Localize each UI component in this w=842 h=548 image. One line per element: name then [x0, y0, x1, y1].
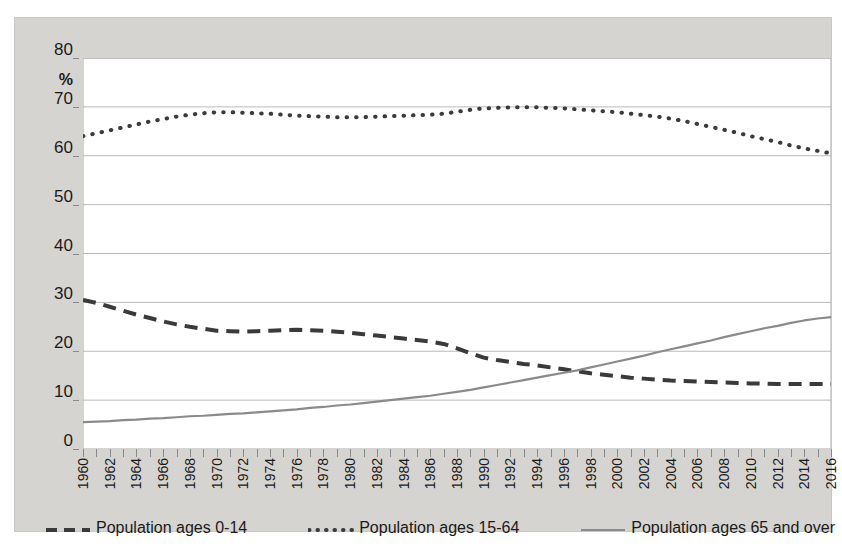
y-axis-unit-label: %	[59, 72, 73, 88]
x-tick-mark	[123, 449, 124, 457]
y-tick-mark	[73, 351, 79, 352]
x-tick-label: 1990	[477, 458, 491, 489]
x-tick-mark	[83, 449, 84, 457]
x-tick-label: 1970	[210, 458, 224, 489]
x-tick-label: 1992	[503, 458, 517, 489]
y-tick-label: 60	[54, 139, 73, 156]
x-tick-label: 1986	[423, 458, 437, 489]
x-tick-mark	[110, 449, 111, 457]
legend-label: Population ages 65 and over	[631, 520, 835, 536]
y-tick-mark	[73, 58, 79, 59]
x-tick-mark	[497, 449, 498, 457]
x-tick-mark	[510, 449, 511, 457]
x-tick-mark	[577, 449, 578, 457]
x-tick-label: 1988	[450, 458, 464, 489]
x-tick-mark	[697, 449, 698, 457]
legend-item[interactable]: Population ages 0-14	[45, 520, 247, 536]
y-tick-mark	[73, 107, 79, 108]
y-tick-label: 40	[54, 237, 73, 254]
y-axis: 80706050403020100%	[15, 18, 73, 548]
x-tick-mark	[217, 449, 218, 457]
x-tick-label: 2000	[610, 458, 624, 489]
plot-area	[83, 58, 831, 449]
plot-svg	[83, 58, 831, 449]
x-tick-mark	[96, 449, 97, 457]
x-tick-mark	[724, 449, 725, 457]
x-tick-mark	[791, 449, 792, 457]
x-tick-label: 2010	[744, 458, 758, 489]
x-tick-label: 1962	[103, 458, 117, 489]
x-tick-mark	[818, 449, 819, 457]
x-tick-label: 2012	[771, 458, 785, 489]
x-tick-label: 1978	[316, 458, 330, 489]
x-tick-mark	[377, 449, 378, 457]
chart-legend: Population ages 0-14Population ages 15-6…	[45, 514, 835, 542]
x-tick-label: 1980	[343, 458, 357, 489]
x-tick-mark	[364, 449, 365, 457]
legend-swatch-icon	[308, 522, 354, 534]
x-tick-mark	[257, 449, 258, 457]
legend-swatch-icon	[45, 522, 91, 534]
x-tick-mark	[337, 449, 338, 457]
series-line	[83, 317, 831, 422]
x-tick-label: 1974	[263, 458, 277, 489]
x-tick-mark	[163, 449, 164, 457]
legend-item[interactable]: Population ages 65 and over	[580, 520, 835, 536]
x-tick-mark	[310, 449, 311, 457]
x-tick-mark	[657, 449, 658, 457]
x-tick-mark	[283, 449, 284, 457]
legend-label: Population ages 15-64	[359, 520, 519, 536]
x-tick-mark	[404, 449, 405, 457]
x-axis: 1960196219641966196819701972197419761978…	[83, 458, 831, 518]
chart-frame: 80706050403020100% 196019621964196619681…	[14, 17, 832, 532]
x-tick-mark	[804, 449, 805, 457]
x-tick-label: 1994	[530, 458, 544, 489]
y-tick-mark	[73, 254, 79, 255]
x-tick-label: 1972	[236, 458, 250, 489]
x-tick-mark	[136, 449, 137, 457]
x-tick-label: 2014	[797, 458, 811, 489]
x-tick-mark	[323, 449, 324, 457]
x-tick-mark	[564, 449, 565, 457]
y-tick-label: 80	[54, 41, 73, 58]
x-tick-mark	[390, 449, 391, 457]
gridlines	[83, 58, 831, 449]
x-tick-mark	[430, 449, 431, 457]
y-tick-label: 50	[54, 188, 73, 205]
y-tick-mark	[73, 205, 79, 206]
x-tick-mark	[644, 449, 645, 457]
legend-label: Population ages 0-14	[96, 520, 247, 536]
y-tick-mark	[73, 449, 79, 450]
x-tick-mark	[457, 449, 458, 457]
x-tick-mark	[417, 449, 418, 457]
x-tick-label: 1976	[290, 458, 304, 489]
y-tick-mark	[73, 156, 79, 157]
legend-swatch-icon	[580, 522, 626, 534]
x-tick-mark	[537, 449, 538, 457]
x-tick-label: 1966	[156, 458, 170, 489]
x-tick-mark	[230, 449, 231, 457]
x-tick-label: 1996	[557, 458, 571, 489]
x-tick-mark	[297, 449, 298, 457]
x-tick-mark	[711, 449, 712, 457]
x-tick-label: 1964	[129, 458, 143, 489]
x-tick-mark	[203, 449, 204, 457]
series-lines	[83, 107, 831, 422]
x-tick-mark	[444, 449, 445, 457]
y-tick-label: 30	[54, 285, 73, 302]
x-tick-mark	[270, 449, 271, 457]
x-tick-mark	[778, 449, 779, 457]
x-tick-mark	[551, 449, 552, 457]
x-tick-mark	[604, 449, 605, 457]
legend-item[interactable]: Population ages 15-64	[308, 520, 519, 536]
population-age-structure-chart: 80706050403020100% 196019621964196619681…	[0, 0, 842, 548]
x-tick-mark	[684, 449, 685, 457]
y-tick-label: 10	[54, 383, 73, 400]
x-tick-mark	[591, 449, 592, 457]
x-tick-mark	[831, 449, 832, 457]
y-tick-label: 20	[54, 334, 73, 351]
x-tick-mark	[524, 449, 525, 457]
x-tick-mark	[484, 449, 485, 457]
x-tick-label: 1998	[584, 458, 598, 489]
x-tick-label: 1982	[370, 458, 384, 489]
